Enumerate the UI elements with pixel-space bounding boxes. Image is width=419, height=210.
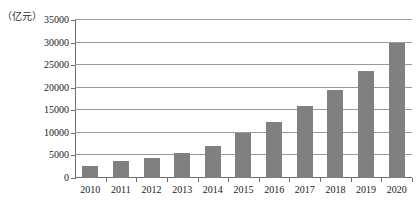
bar-slot [381, 20, 412, 178]
y-tick-label-5000: 5000 [49, 150, 69, 160]
x-tick-2018 [351, 178, 352, 182]
bar-2012 [144, 158, 160, 178]
y-tick-label-15000: 15000 [44, 105, 69, 115]
x-tick-2017 [320, 178, 321, 182]
y-axis-tick-labels: 35000300002500020000150001000050000 [0, 0, 69, 210]
x-tick-2019 [381, 178, 382, 182]
bar-slot [75, 20, 106, 178]
bar-2015 [235, 133, 251, 178]
x-tick-2011 [136, 178, 137, 182]
x-axis-tick-marks [75, 178, 412, 183]
x-tick-label-2012: 2012 [136, 184, 167, 196]
x-tick-2012 [167, 178, 168, 182]
bar-slot [289, 20, 320, 178]
x-tick-label-2019: 2019 [351, 184, 382, 196]
x-tick-2014 [228, 178, 229, 182]
x-tick-2013 [198, 178, 199, 182]
x-tick-2010 [106, 178, 107, 182]
bar-2014 [205, 146, 221, 179]
x-tick-2015 [259, 178, 260, 182]
bar-2018 [327, 90, 343, 178]
bar-2013 [174, 153, 190, 178]
x-tick-label-2015: 2015 [228, 184, 259, 196]
y-tick-label-25000: 25000 [44, 60, 69, 70]
bar-slot [228, 20, 259, 178]
x-tick-label-2020: 2020 [381, 184, 412, 196]
bar-slot [320, 20, 351, 178]
x-tick-label-2013: 2013 [167, 184, 198, 196]
plot-area [75, 20, 412, 178]
x-tick-label-2014: 2014 [198, 184, 229, 196]
x-tick-2016 [289, 178, 290, 182]
x-axis-tick-labels: 2010201120122013201420152016201720182019… [75, 184, 412, 200]
bar-slot [167, 20, 198, 178]
y-tick-label-30000: 30000 [44, 38, 69, 48]
bar-2020 [389, 43, 405, 178]
bar-slot [198, 20, 229, 178]
x-tick-label-2011: 2011 [106, 184, 137, 196]
bar-2010 [82, 166, 98, 178]
x-tick-2020 [412, 178, 413, 182]
x-tick-label-2018: 2018 [320, 184, 351, 196]
bar-2016 [266, 122, 282, 178]
y-tick-label-35000: 35000 [44, 15, 69, 25]
bar-slot [106, 20, 137, 178]
y-tick-label-0: 0 [64, 173, 69, 183]
x-tick-label-2016: 2016 [259, 184, 290, 196]
bar-slot [259, 20, 290, 178]
x-tick-label-2017: 2017 [289, 184, 320, 196]
bar-slot [351, 20, 382, 178]
x-tick-label-2010: 2010 [75, 184, 106, 196]
bar-slot [136, 20, 167, 178]
bar-chart: （亿元） 35000300002500020000150001000050000… [0, 0, 419, 210]
bar-2017 [297, 106, 313, 178]
bar-2019 [358, 71, 374, 178]
y-tick-label-10000: 10000 [44, 128, 69, 138]
bar-2011 [113, 161, 129, 178]
y-tick-label-20000: 20000 [44, 83, 69, 93]
